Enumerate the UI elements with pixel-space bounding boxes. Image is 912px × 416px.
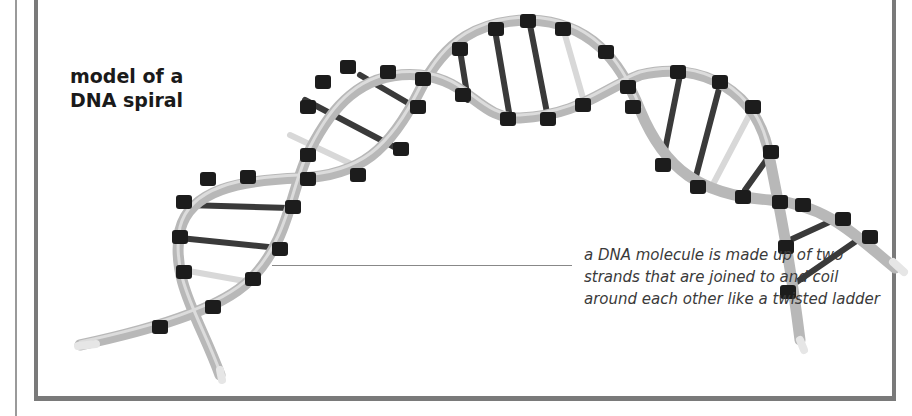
caption-line-3: around each other like a twisted ladder bbox=[584, 288, 880, 310]
annotation-leader-line bbox=[272, 265, 572, 266]
figure-title-line-1: model of a bbox=[70, 64, 183, 88]
annotation-caption: a DNA molecule is made up of two strands… bbox=[584, 244, 880, 310]
figure-title-line-2: DNA spiral bbox=[70, 88, 183, 112]
caption-line-2: strands that are joined to and coil bbox=[584, 266, 880, 288]
caption-line-1: a DNA molecule is made up of two bbox=[584, 244, 880, 266]
dna-model-illustration bbox=[0, 0, 912, 416]
figure-title: model of a DNA spiral bbox=[70, 64, 183, 112]
